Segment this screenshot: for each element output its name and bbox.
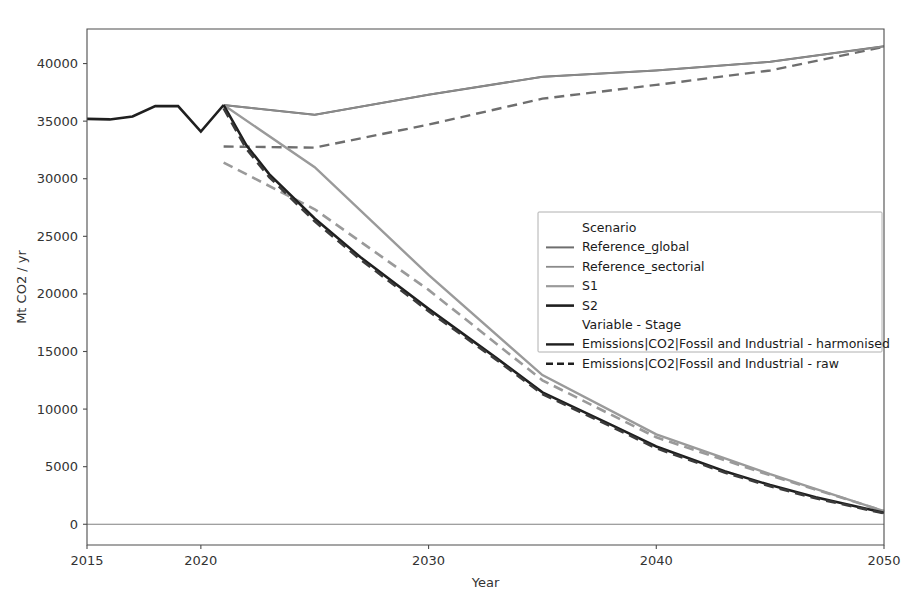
legend-entry-label: S2 — [582, 298, 598, 313]
y-axis-title: Mt CO2 / yr — [14, 249, 29, 323]
y-tick-label: 0 — [70, 517, 78, 532]
x-tick-label: 2020 — [184, 553, 217, 568]
legend-entry-label: Reference_global — [582, 239, 689, 254]
legend-entry-label: Emissions|CO2|Fossil and Industrial - ra… — [582, 356, 839, 371]
y-tick-label: 35000 — [37, 114, 78, 129]
y-tick-label: 20000 — [37, 286, 78, 301]
y-tick-label: 15000 — [37, 344, 78, 359]
x-tick-label: 2030 — [412, 553, 445, 568]
x-axis-title: Year — [471, 575, 500, 590]
legend-entry-label: Reference_sectorial — [582, 259, 705, 274]
x-tick-label: 2015 — [70, 553, 103, 568]
x-tick-label: 2050 — [867, 553, 900, 568]
legend-entry-label: S1 — [582, 278, 598, 293]
y-tick-label: 10000 — [37, 402, 78, 417]
y-tick-label: 5000 — [45, 459, 78, 474]
plot-area: 2015202020302040205005000100001500020000… — [14, 29, 901, 590]
emissions-line-chart: 2015202020302040205005000100001500020000… — [0, 0, 913, 605]
x-tick-label: 2040 — [640, 553, 673, 568]
y-tick-label: 40000 — [37, 56, 78, 71]
legend-entry-label: Emissions|CO2|Fossil and Industrial - ha… — [582, 336, 890, 351]
y-tick-label: 30000 — [37, 171, 78, 186]
y-tick-label: 25000 — [37, 229, 78, 244]
legend-group-heading: Scenario — [582, 220, 636, 235]
legend-group-heading: Variable - Stage — [582, 317, 681, 332]
